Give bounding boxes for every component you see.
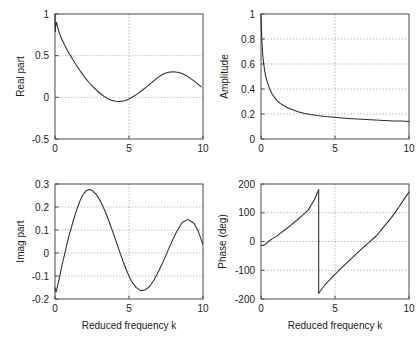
real-part-ylabel: Real part <box>15 56 26 97</box>
phase-gridlines <box>261 184 409 299</box>
amplitude-xtick-1: 5 <box>332 143 338 154</box>
panel-real-part: 1 0.5 0 -0.5 0 5 10 Real part <box>0 0 210 170</box>
imag-part-xtick-2: 10 <box>197 303 209 314</box>
imag-part-ytick-3: 0.1 <box>35 225 49 236</box>
panel-phase: 200 100 0 -100 -200 0 5 10 Phase (deg) R… <box>210 170 419 339</box>
amplitude-ytick-1: 0.2 <box>241 109 255 120</box>
amplitude-ytick-0: 0 <box>249 134 255 145</box>
amplitude-x-tickmarks <box>261 136 409 140</box>
panel-amplitude: 1 0.8 0.6 0.4 0.2 0 0 5 10 Amplitude <box>210 0 419 170</box>
phase-y-tickmarks <box>261 184 265 299</box>
imag-part-xtick-0: 0 <box>52 303 58 314</box>
imag-part-ytick-4: 0.2 <box>35 202 49 213</box>
imag-part-ytick-5: 0.3 <box>35 179 49 190</box>
amplitude-ytick-4: 0.8 <box>241 34 255 45</box>
phase-ylabel: Phase (deg) <box>217 214 228 268</box>
amplitude-ytick-2: 0.4 <box>241 84 255 95</box>
real-part-xtick-1: 5 <box>126 143 132 154</box>
amplitude-ytick-5: 1 <box>249 9 255 20</box>
phase-plot: 200 100 0 -100 -200 0 5 10 Phase (deg) R… <box>210 170 419 339</box>
real-part-x-tickmarks <box>55 136 203 140</box>
phase-ytick-0: -200 <box>235 294 255 305</box>
imag-part-x-tickmarks <box>55 296 203 300</box>
real-part-gridlines <box>55 14 203 139</box>
phase-xtick-0: 0 <box>258 303 264 314</box>
imag-part-ylabel: Imag part <box>15 220 26 262</box>
real-part-xtick-0: 0 <box>52 143 58 154</box>
real-part-xtick-2: 10 <box>197 143 209 154</box>
amplitude-ytick-3: 0.6 <box>241 59 255 70</box>
imag-part-ytick-0: -0.2 <box>32 294 50 305</box>
real-part-curve <box>55 14 201 102</box>
phase-xtick-1: 5 <box>332 303 338 314</box>
phase-ytick-4: 200 <box>238 179 255 190</box>
amplitude-xtick-2: 10 <box>403 143 415 154</box>
real-part-ytick-2: 0.5 <box>35 50 49 61</box>
imag-part-plot: 0.3 0.2 0.1 0 -0.1 -0.2 0 5 10 Imag part… <box>0 170 210 339</box>
imag-part-y-tickmarks <box>55 184 59 299</box>
imag-part-xlabel: Reduced frequency k <box>82 320 178 331</box>
phase-xtick-2: 10 <box>403 303 415 314</box>
imag-part-gridlines <box>55 184 203 299</box>
real-part-ytick-1: 0 <box>43 92 49 103</box>
phase-ytick-2: 0 <box>249 236 255 247</box>
panel-imag-part: 0.3 0.2 0.1 0 -0.1 -0.2 0 5 10 Imag part… <box>0 170 210 339</box>
real-part-ytick-0: -0.5 <box>32 134 50 145</box>
imag-part-xtick-1: 5 <box>126 303 132 314</box>
imag-part-ytick-2: 0 <box>43 248 49 259</box>
real-part-plot: 1 0.5 0 -0.5 0 5 10 Real part <box>0 0 210 170</box>
amplitude-xtick-0: 0 <box>258 143 264 154</box>
real-part-y-tickmarks <box>55 14 59 139</box>
amplitude-plot: 1 0.8 0.6 0.4 0.2 0 0 5 10 Amplitude <box>210 0 419 170</box>
phase-curve-segment-1 <box>261 190 319 246</box>
phase-x-tickmarks <box>261 296 409 300</box>
amplitude-ylabel: Amplitude <box>219 54 230 99</box>
phase-xlabel: Reduced frequency k <box>288 320 384 331</box>
phase-ytick-3: 100 <box>238 207 255 218</box>
phase-curve-segment-2 <box>319 192 409 293</box>
imag-part-ytick-1: -0.1 <box>32 271 50 282</box>
real-part-ytick-3: 1 <box>43 9 49 20</box>
phase-ytick-1: -100 <box>235 265 255 276</box>
figure-canvas: 1 0.5 0 -0.5 0 5 10 Real part <box>0 0 419 339</box>
